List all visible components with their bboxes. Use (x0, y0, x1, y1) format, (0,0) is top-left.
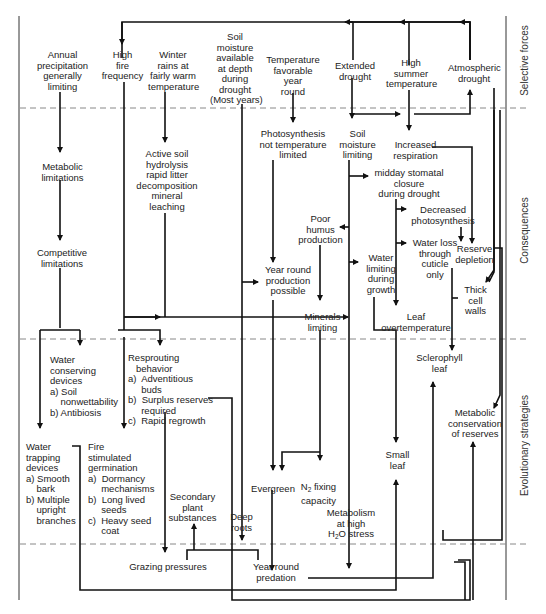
node-minerals-limiting: Minerals limiting (300, 312, 345, 333)
node-soil-moisture-depth: Soil moisture available at depth during … (210, 32, 260, 106)
node-winter-rains: Winter rains at fairly warm temperature (148, 50, 198, 92)
node-metabolic-limitations: Metabolic limitations (35, 162, 90, 183)
node-metabolism-high-h2o-stress: Metabolism at high H2O stress (316, 508, 386, 543)
node-deep-roots: Deep roots (224, 512, 259, 533)
node-sclerophyll-leaf: Sclerophyll leaf (412, 353, 467, 374)
node-grazing-pressures: Grazing pressures (128, 562, 208, 573)
node-resprouting-behavior: Resprouting behavior a) Adventitious bud… (128, 353, 223, 427)
node-extended-drought: Extended drought (330, 61, 380, 82)
node-high-summer-temperature: High summer temperature (386, 58, 436, 90)
band-label-selective-forces: Selective forces (519, 21, 530, 101)
band-label-consequences: Consequences (519, 191, 530, 271)
node-year-round-predation: Year round predation (246, 562, 306, 583)
node-annual-precipitation: Annual precipitation generally limiting (35, 50, 90, 92)
node-atmospheric-drought: Atmospheric drought (448, 63, 500, 84)
node-midday-stomatal-closure: midday stomatal closure during drought (370, 168, 448, 200)
node-temperature-favorable: Temperature favorable year round (263, 55, 323, 97)
node-high-fire-frequency: High fire frequency (100, 50, 145, 82)
node-poor-humus: Poor humus production (293, 214, 348, 246)
node-evergreen: Evergreen (248, 484, 298, 495)
node-reserve-depletion: Reserve depletion (452, 244, 497, 265)
node-water-trapping-devices: Water trapping devices a) Smooth bark b)… (26, 442, 76, 526)
node-soil-moisture-limiting: Soil moisture limiting (335, 129, 380, 161)
node-small-leaf: Small leaf (380, 450, 415, 471)
node-year-round-production: Year round production possible (258, 265, 318, 297)
node-photosynthesis-not-limited: Photosynthesis not temperature limited (258, 129, 328, 161)
node-increased-respiration: Increased respiration (388, 140, 443, 161)
node-water-limiting-growth: Water limiting during growth (361, 253, 401, 295)
node-competitive-limitations: Competitive limitations (32, 248, 92, 269)
node-decreased-photosynthesis: Decreased photosynthesis (408, 205, 478, 226)
band-label-evolutionary-strategies: Evolutionary strategies (519, 386, 530, 506)
node-fire-stimulated-germination: Fire stimulated germination a) Dormancy … (88, 442, 158, 537)
node-thick-cell-walls: Thick cell walls (458, 285, 493, 317)
node-secondary-plant-substances: Secondary plant substances (165, 492, 220, 524)
node-active-soil: Active soil hydrolysis rapid litter deco… (136, 149, 198, 212)
node-water-conserving-devices: Water conserving devices a) Soil nonwett… (50, 355, 125, 418)
node-leaf-overtemperature: Leaf overtemperature (376, 312, 456, 333)
node-metabolic-conservation: Metabolic conservation of reserves (445, 408, 505, 440)
node-n2-fixing-capacity: N2 fixing capacity (296, 482, 341, 506)
